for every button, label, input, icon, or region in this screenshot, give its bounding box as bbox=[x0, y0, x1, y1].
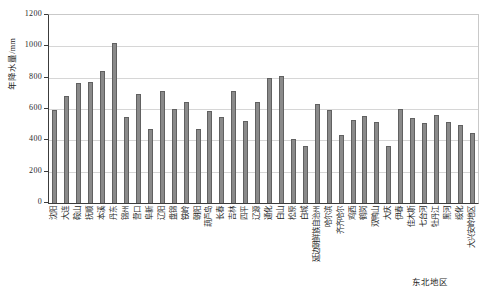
bar-slot bbox=[216, 15, 228, 203]
x-category-label: 四平 bbox=[239, 206, 250, 282]
bar-slot bbox=[264, 15, 276, 203]
bar-slot bbox=[431, 15, 443, 203]
x-label-slot: 鸡西 bbox=[346, 206, 358, 284]
x-label-slot: 盘锦 bbox=[167, 206, 179, 284]
y-tick-label: 600 bbox=[0, 103, 42, 113]
x-category-label: 鸡西 bbox=[347, 206, 358, 282]
y-axis-title: 年降水量/mm bbox=[7, 16, 18, 112]
x-label-slot: 佳木斯 bbox=[406, 206, 418, 284]
bar-slot bbox=[454, 15, 466, 203]
bar-slot bbox=[144, 15, 156, 203]
bar bbox=[255, 102, 260, 203]
y-tick-label: 1000 bbox=[0, 40, 42, 50]
x-label-slot: 吉林 bbox=[227, 206, 239, 284]
x-category-label: 白城 bbox=[299, 206, 310, 282]
x-label-slot: 丹东 bbox=[108, 206, 120, 284]
y-tick-mark bbox=[44, 108, 48, 109]
x-label-slot: 松原 bbox=[286, 206, 298, 284]
x-label-slot: 本溪 bbox=[96, 206, 108, 284]
bar-slot bbox=[228, 15, 240, 203]
bar-slot bbox=[287, 15, 299, 203]
x-label-slot: 通化 bbox=[263, 206, 275, 284]
bar-slot bbox=[132, 15, 144, 203]
bar bbox=[243, 121, 248, 203]
bar bbox=[148, 129, 153, 203]
x-label-slot: 鹤岗 bbox=[358, 206, 370, 284]
x-category-label: 延边朝鲜族自治州 bbox=[311, 206, 322, 282]
y-tick-label: 1200 bbox=[0, 9, 42, 19]
y-tick-mark bbox=[44, 139, 48, 140]
bar bbox=[196, 129, 201, 203]
bar-slot bbox=[347, 15, 359, 203]
bar-slot bbox=[240, 15, 252, 203]
bar-slot bbox=[192, 15, 204, 203]
bar-slot bbox=[121, 15, 133, 203]
bar-slot bbox=[299, 15, 311, 203]
bar bbox=[458, 125, 463, 203]
bar bbox=[160, 91, 165, 203]
x-label-slot: 哈尔滨 bbox=[322, 206, 334, 284]
bar-slot bbox=[61, 15, 73, 203]
bar bbox=[100, 71, 105, 203]
x-category-label: 长春 bbox=[215, 206, 226, 282]
bar bbox=[112, 43, 117, 203]
precipitation-bar-chart: 年降水量/mm 020040060080010001200 沈阳大连鞍山抚顺本溪… bbox=[0, 0, 486, 300]
bar-slot bbox=[395, 15, 407, 203]
x-category-label: 佳木斯 bbox=[406, 206, 417, 282]
x-label-slot: 绥化 bbox=[453, 206, 465, 284]
bar bbox=[52, 110, 57, 203]
bar bbox=[374, 122, 379, 203]
bar-slot bbox=[156, 15, 168, 203]
x-label-slot: 四平 bbox=[239, 206, 251, 284]
y-tick-label: 200 bbox=[0, 166, 42, 176]
bar bbox=[279, 76, 284, 203]
x-category-label: 绥化 bbox=[454, 206, 465, 282]
bar bbox=[184, 102, 189, 203]
x-label-slot: 朝阳 bbox=[191, 206, 203, 284]
x-category-label: 大庆 bbox=[382, 206, 393, 282]
x-category-label: 牡丹江 bbox=[430, 206, 441, 282]
bar-slot bbox=[383, 15, 395, 203]
x-category-label: 七台河 bbox=[418, 206, 429, 282]
bar bbox=[124, 117, 129, 203]
bar-slot bbox=[97, 15, 109, 203]
x-label-slot: 长春 bbox=[215, 206, 227, 284]
x-category-label: 吉林 bbox=[227, 206, 238, 282]
x-category-label: 伊春 bbox=[394, 206, 405, 282]
x-label-slot: 大连 bbox=[60, 206, 72, 284]
bar bbox=[207, 111, 212, 203]
x-category-label: 沈阳 bbox=[48, 206, 59, 282]
x-label-slot: 伊春 bbox=[394, 206, 406, 284]
x-label-slot: 白城 bbox=[298, 206, 310, 284]
x-label-slot: 牡丹江 bbox=[430, 206, 442, 284]
y-tick-mark bbox=[44, 202, 48, 203]
bar-slot bbox=[49, 15, 61, 203]
bar-slot bbox=[371, 15, 383, 203]
x-category-label: 阜新 bbox=[144, 206, 155, 282]
bar bbox=[291, 139, 296, 203]
x-label-slot: 白山 bbox=[275, 206, 287, 284]
bar bbox=[315, 104, 320, 203]
bar-slot bbox=[442, 15, 454, 203]
x-category-label: 白山 bbox=[275, 206, 286, 282]
bar-slot bbox=[419, 15, 431, 203]
x-label-slot: 铁岭 bbox=[179, 206, 191, 284]
x-category-label: 黑河 bbox=[442, 206, 453, 282]
bar bbox=[339, 135, 344, 203]
x-label-slot: 七台河 bbox=[418, 206, 430, 284]
x-category-label: 哈尔滨 bbox=[323, 206, 334, 282]
x-label-slot: 大庆 bbox=[382, 206, 394, 284]
region-label: 东北地区 bbox=[412, 275, 448, 287]
x-category-label: 齐齐哈尔 bbox=[335, 206, 346, 282]
x-label-slot: 辽源 bbox=[251, 206, 263, 284]
x-label-slot: 大兴安岭地区 bbox=[465, 206, 477, 284]
bar-slot bbox=[335, 15, 347, 203]
bar-slot bbox=[407, 15, 419, 203]
y-tick-mark bbox=[44, 171, 48, 172]
bar bbox=[434, 115, 439, 203]
bar bbox=[470, 133, 475, 204]
y-tick-label: 800 bbox=[0, 72, 42, 82]
x-category-label: 抚顺 bbox=[84, 206, 95, 282]
x-label-slot: 黑河 bbox=[441, 206, 453, 284]
bar-slot bbox=[311, 15, 323, 203]
